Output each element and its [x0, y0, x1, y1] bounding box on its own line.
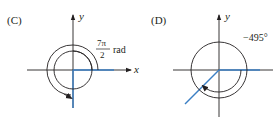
panel-c: (C) x y 7π 2 rad — [7, 10, 139, 108]
angle-diagrams: (C) x y 7π 2 rad (D) y — [0, 0, 273, 126]
panel-d-label: (D) — [151, 14, 167, 27]
panel-c-label: (C) — [7, 14, 22, 27]
rotation-arc-outer-top — [73, 45, 98, 70]
angle-label-d: −495° — [243, 32, 268, 43]
terminal-side — [185, 70, 219, 104]
y-axis-label: y — [78, 10, 84, 22]
angle-label-c: 7π 2 rad — [96, 38, 126, 60]
angle-numerator: 7π — [97, 38, 107, 48]
angle-denominator: 2 — [100, 50, 105, 60]
angle-unit: rad — [113, 44, 126, 55]
panel-d: (D) y −495° — [151, 10, 273, 117]
y-axis-label: y — [224, 10, 230, 22]
x-axis-label: x — [133, 63, 139, 75]
